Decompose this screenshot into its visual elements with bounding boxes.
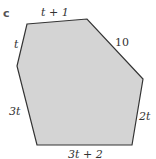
side-label-right: 2t bbox=[138, 110, 151, 123]
side-label-upper-right: 10 bbox=[115, 36, 129, 49]
side-label-bottom: 3t + 2 bbox=[68, 148, 103, 159]
side-label-lower-left: 3t bbox=[9, 105, 21, 118]
hexagon-diagram: c t + 1 t 10 3t 2t 3t + 2 bbox=[0, 0, 156, 159]
part-label: c bbox=[3, 7, 10, 20]
side-label-upper-left: t bbox=[14, 38, 19, 51]
side-label-top: t + 1 bbox=[41, 6, 69, 19]
